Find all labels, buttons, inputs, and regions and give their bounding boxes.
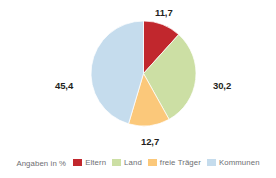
- value-label-freie-traeger: 12,7: [141, 137, 159, 147]
- pie-svg: [91, 21, 196, 126]
- legend-label-freie-traeger: freie Träger: [160, 159, 201, 167]
- legend-item-kommunen[interactable]: Kommunen: [207, 159, 260, 167]
- legend-item-eltern[interactable]: Eltern: [73, 159, 106, 167]
- legend-label-land: Land: [124, 159, 142, 167]
- value-label-land: 30,2: [213, 81, 231, 91]
- legend-swatch-eltern: [73, 159, 82, 166]
- legend-swatch-kommunen: [207, 159, 216, 166]
- legend-label-kommunen: Kommunen: [219, 159, 260, 167]
- legend-label-eltern: Eltern: [85, 159, 106, 167]
- value-label-kommunen: 45,4: [55, 81, 73, 91]
- value-label-eltern: 11,7: [155, 8, 173, 18]
- legend-swatch-land: [112, 159, 121, 166]
- pie-slices: [91, 21, 196, 126]
- pie-chart-graphic: [91, 21, 196, 126]
- chart-legend: Angaben in % Eltern Land freie Träger Ko…: [0, 155, 276, 171]
- legend-swatch-freie-traeger: [148, 159, 157, 166]
- pie-chart-figure: 11,7 30,2 12,7 45,4 Angaben in % Eltern …: [0, 0, 276, 178]
- legend-item-freie-traeger[interactable]: freie Träger: [148, 159, 201, 167]
- legend-item-land[interactable]: Land: [112, 159, 142, 167]
- legend-caption: Angaben in %: [16, 159, 66, 168]
